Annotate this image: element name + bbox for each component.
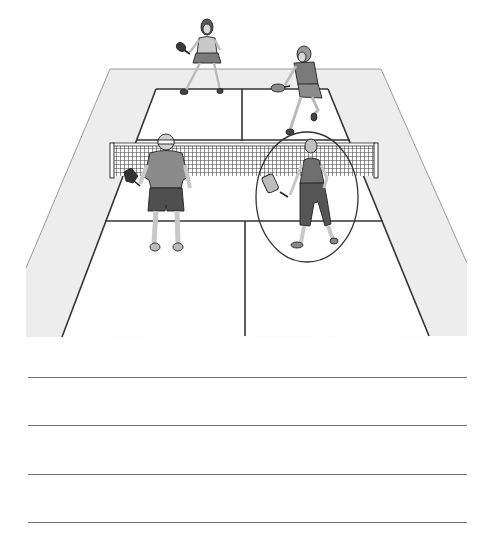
answer-line-2[interactable] xyxy=(28,425,467,426)
pickleball-illustration: Pickleball doubles match viewed from beh… xyxy=(0,0,493,554)
net-post-right xyxy=(374,143,378,178)
answer-line-3[interactable] xyxy=(28,474,467,475)
paddle-icon xyxy=(271,84,285,92)
answer-line-4[interactable] xyxy=(28,522,467,523)
net-post-left xyxy=(110,143,114,178)
answer-line-1[interactable] xyxy=(28,377,467,378)
